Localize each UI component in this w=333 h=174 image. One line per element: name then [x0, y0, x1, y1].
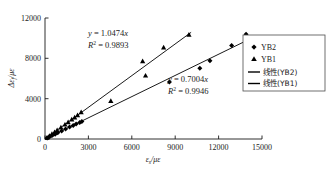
legend-label-linear-yb2: 线性(YB2): [263, 67, 297, 77]
x-tick-label: 3000: [80, 143, 96, 152]
svg-text:εs/με: εs/με: [146, 155, 162, 165]
eq1-x: x: [123, 28, 128, 38]
x-title-eps2: ε: [157, 155, 161, 164]
y-tick-labels: 0 4000 8000 12000: [21, 14, 41, 144]
annotation-yb2-equation: y = 0.7004x R2 = 0.9946: [167, 74, 208, 96]
x-tick-label: 15000: [252, 143, 272, 152]
legend-label-linear-yb1: 线性(YB1): [263, 78, 297, 88]
data-point-yb1: [161, 45, 166, 50]
eq1-eq: = 1.0474: [92, 28, 125, 38]
eq2-x: x: [203, 74, 208, 84]
eq2-eq: = 0.7004: [172, 74, 205, 84]
x-tick-label: 12000: [209, 143, 229, 152]
eq2-r2-value: = 0.9946: [176, 86, 208, 96]
plot-frame: [45, 18, 262, 139]
y-axis-ticks: [45, 18, 49, 139]
svg-text:y = 0.7004x: y = 0.7004x: [167, 74, 208, 84]
y-tick-label: 12000: [21, 14, 41, 23]
data-marker-layer: [44, 32, 248, 141]
y-tick-label: 0: [37, 135, 41, 144]
svg-text:R2 = 0.9893: R2 = 0.9893: [87, 40, 128, 50]
legend-label-yb1: YB1: [261, 55, 276, 64]
data-point-yb1: [79, 110, 84, 115]
y-tick-label: 4000: [25, 95, 41, 104]
y-title-eps2: ε: [7, 68, 16, 72]
chart-figure: 0 4000 8000 12000 0 3000 6000 9000 12000…: [0, 0, 333, 174]
legend-label-yb2: YB2: [261, 43, 276, 52]
data-point-yb1: [55, 128, 60, 133]
svg-text:y = 1.0474x: y = 1.0474x: [87, 28, 128, 38]
x-tick-label: 6000: [124, 143, 140, 152]
svg-text:R2 = 0.9946: R2 = 0.9946: [167, 86, 208, 96]
x-axis-title: εs/με: [146, 155, 162, 165]
data-point-yb2: [197, 66, 202, 71]
annotation-yb1-equation: y = 1.0474x R2 = 0.9893: [87, 28, 128, 50]
x-tick-label: 9000: [167, 143, 183, 152]
data-point-yb1: [143, 73, 148, 78]
legend: YB2 YB1 线性(YB2) 线性(YB1): [243, 35, 325, 91]
x-tick-label: 0: [43, 143, 47, 152]
x-tick-labels: 0 3000 6000 9000 12000 15000: [43, 143, 272, 152]
y-tick-label: 8000: [25, 54, 41, 63]
x-axis-ticks: [45, 136, 262, 140]
data-point-yb1: [140, 59, 145, 64]
scatter-chart: 0 4000 8000 12000 0 3000 6000 9000 12000…: [0, 0, 333, 174]
svg-text:Δεf/με: Δεf/με: [7, 68, 17, 89]
data-point-yb1: [108, 98, 113, 103]
eq1-r2-value: = 0.9893: [96, 40, 128, 50]
y-axis-title: Δεf/με: [7, 68, 17, 89]
